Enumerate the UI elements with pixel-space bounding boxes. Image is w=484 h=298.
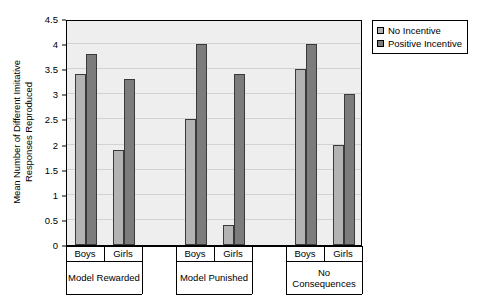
x-axis-tier-divider — [286, 261, 362, 262]
x-axis-tier-divider — [66, 261, 142, 262]
legend-swatch-icon-positive-incentive — [377, 40, 384, 47]
x-axis-subgroup-label: Girls — [324, 246, 362, 261]
x-axis-bottom-border — [66, 294, 142, 295]
bar — [223, 225, 234, 245]
y-axis-title-line-1: Mean Number of Different Imitative — [11, 60, 23, 204]
x-axis-separator — [362, 246, 363, 294]
x-axis-subgroup-label: Girls — [104, 246, 142, 261]
y-axis-tick-label: 3 — [53, 90, 58, 100]
bar-chart: Mean Number of Different Imitative Respo… — [0, 0, 484, 298]
legend-label-positive-incentive: Positive Incentive — [388, 38, 462, 49]
x-axis-separator — [142, 246, 143, 294]
y-axis-tick-label: 2.5 — [45, 115, 58, 125]
bar — [295, 69, 306, 245]
x-axis-bottom-border — [286, 294, 362, 295]
x-axis-group-label-line: Model Rewarded — [68, 272, 140, 283]
x-axis-tier-divider — [176, 261, 252, 262]
bar — [196, 44, 207, 245]
x-axis-subgroup-label: Boys — [66, 246, 104, 261]
y-axis-tick-label: 1 — [53, 191, 58, 201]
x-axis-bottom-border — [176, 294, 252, 295]
legend-item-positive-incentive: Positive Incentive — [377, 37, 462, 50]
bar — [344, 94, 355, 245]
y-axis-title: Mean Number of Different Imitative Respo… — [8, 18, 38, 246]
x-axis-group-label: Model Rewarded — [66, 261, 142, 294]
x-axis-subgroup-label: Girls — [214, 246, 252, 261]
x-axis-group-label-line: Model Punished — [180, 272, 248, 283]
x-axis-group-label: NoConsequences — [286, 261, 362, 294]
bar — [86, 54, 97, 245]
bar — [333, 145, 344, 245]
plot-area — [66, 20, 362, 246]
bar — [113, 150, 124, 245]
y-axis-tick-labels: 00.511.522.533.544.5 — [36, 14, 62, 252]
x-axis-subgroup-label: Boys — [286, 246, 324, 261]
x-axis-group-label-line: Consequences — [292, 278, 355, 289]
x-axis-group-label-line: No — [318, 267, 330, 278]
x-axis-separator — [324, 246, 325, 261]
x-axis-separator — [252, 246, 253, 294]
legend-item-no-incentive: No Incentive — [377, 24, 462, 37]
y-axis-tick-label: 3.5 — [45, 65, 58, 75]
bar — [185, 119, 196, 245]
bars-layer — [67, 21, 361, 245]
x-axis-separator — [286, 246, 287, 294]
y-axis-tick-label: 4.5 — [45, 15, 58, 25]
x-axis-separator — [214, 246, 215, 261]
legend-label-no-incentive: No Incentive — [388, 25, 441, 36]
bar — [234, 74, 245, 245]
y-axis-tick-label: 2 — [53, 141, 58, 151]
y-axis-tick-label: 1.5 — [45, 166, 58, 176]
bar — [306, 44, 317, 245]
x-axis-separator — [66, 246, 67, 294]
y-axis-tick-label: 4 — [53, 40, 58, 50]
x-axis-separator — [104, 246, 105, 261]
x-axis-group-row: Model RewardedModel PunishedNoConsequenc… — [66, 261, 362, 294]
legend: No Incentive Positive Incentive — [372, 20, 468, 54]
y-axis-title-line-2: Responses Reproduced — [23, 60, 35, 204]
bar — [124, 79, 135, 245]
x-axis-subgroup-label: Boys — [176, 246, 214, 261]
legend-swatch-icon-no-incentive — [377, 27, 384, 34]
bar — [75, 74, 86, 245]
y-axis-tick-label: 0.5 — [45, 216, 58, 226]
x-axis: BoysGirlsBoysGirlsBoysGirls Model Reward… — [66, 246, 362, 294]
x-axis-group-label: Model Punished — [176, 261, 252, 294]
y-axis-tick-label: 0 — [53, 241, 58, 251]
x-axis-separator — [176, 246, 177, 294]
